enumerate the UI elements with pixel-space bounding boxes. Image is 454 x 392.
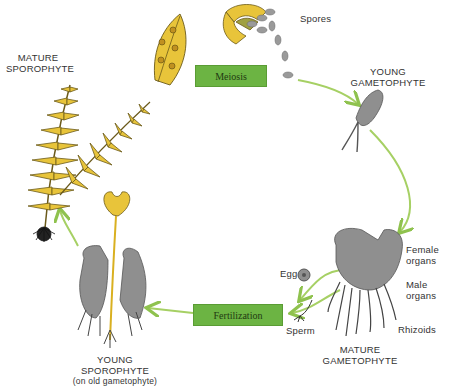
label-line: MATURE xyxy=(320,344,400,355)
label-line: YOUNG xyxy=(340,66,436,77)
label-line: organs xyxy=(406,290,436,301)
pinna-with-sori xyxy=(154,14,186,85)
label-female-organs: Female organs xyxy=(406,244,439,266)
label-rhizoids: Rhizoids xyxy=(398,324,436,335)
label-line: GAMETOPHYTE xyxy=(340,77,436,88)
label-line: YOUNG xyxy=(60,354,170,365)
sporangium xyxy=(223,5,266,45)
label-sperm: Sperm xyxy=(286,325,315,336)
label-line: Male xyxy=(406,279,436,290)
mature-gametophyte xyxy=(328,228,402,336)
label-young-sporophyte: YOUNG SPOROPHYTE (on old gametophyte) xyxy=(60,354,170,387)
label-mature-sporophyte: MATURE SPOROPHYTE xyxy=(6,52,70,74)
label-egg: Egg xyxy=(280,268,298,279)
label-male-organs: Male organs xyxy=(406,279,436,301)
label-spores: Spores xyxy=(300,13,331,24)
label-mature-gametophyte: MATURE GAMETOPHYTE xyxy=(320,344,400,366)
young-sporophyte xyxy=(78,192,146,348)
mature-sporophyte-fern xyxy=(28,85,150,242)
label-line: SPOROPHYTE xyxy=(60,365,170,376)
label-line: organs xyxy=(406,255,439,266)
label-line: GAMETOPHYTE xyxy=(320,355,400,366)
label-line: MATURE xyxy=(6,52,70,63)
label-line: Female xyxy=(406,244,439,255)
fern-life-cycle-diagram: MATURE SPOROPHYTE Spores YOUNG GAMETOPHY… xyxy=(0,0,454,392)
label-young-gametophyte: YOUNG GAMETOPHYTE xyxy=(340,66,436,88)
process-meiosis: Meiosis xyxy=(195,65,267,87)
label-line: (on old gametophyte) xyxy=(60,376,170,387)
process-fertilization: Fertilization xyxy=(193,304,283,326)
label-line: SPOROPHYTE xyxy=(6,63,70,74)
egg-cell xyxy=(298,269,310,281)
young-gametophyte xyxy=(342,90,383,152)
